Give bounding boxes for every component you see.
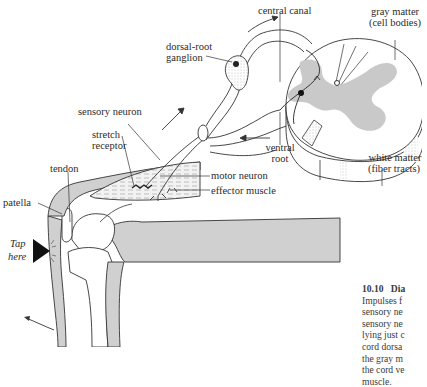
label-tendon: tendon: [50, 163, 79, 175]
tap-arrow-icon: [33, 239, 50, 263]
arrow-up-icon: [162, 110, 182, 130]
label-dorsal-root: dorsal-root: [166, 41, 212, 53]
label-gray-matter-sub: (cell bodies): [362, 17, 427, 29]
caption-line: muscle.: [362, 376, 427, 387]
caption-title: Dia: [391, 283, 405, 294]
label-root: root: [262, 153, 298, 165]
caption-heading: 10.10 Dia: [362, 283, 427, 295]
label-receptor: receptor: [92, 140, 126, 152]
label-effector-muscle: effector muscle: [211, 185, 276, 197]
arrow-top-icon: [248, 18, 276, 32]
label-here: here: [8, 251, 26, 263]
label-motor-neuron: motor neuron: [211, 170, 268, 182]
caption-line: sensory ne: [362, 318, 427, 330]
caption-line: the cord ve: [362, 364, 427, 376]
caption-line: cord dorsa: [362, 341, 427, 353]
label-stretch: stretch: [92, 129, 120, 141]
femur-condyle: [72, 214, 115, 252]
femur: [110, 218, 340, 262]
dorsal-root-ganglion-cell: [233, 61, 239, 67]
caption-line: lying just c: [362, 329, 427, 341]
figure-caption: 10.10 Dia Impulses f sensory ne sensory …: [362, 283, 427, 387]
label-central-canal: central canal: [258, 5, 311, 17]
label-sensory-neuron: sensory neuron: [78, 106, 142, 118]
label-white-matter: white matter: [362, 152, 427, 164]
label-patella: patella: [3, 197, 31, 209]
caption-number: 10.10: [362, 283, 384, 294]
caption-line: Impulses f: [362, 295, 427, 307]
label-ganglion: ganglion: [166, 52, 203, 64]
label-gray-matter: gray matter: [365, 6, 425, 18]
label-ventral: ventral: [262, 142, 298, 154]
label-tap: Tap: [10, 238, 25, 250]
caption-line: sensory ne: [362, 306, 427, 318]
label-white-matter-sub: (fiber tracts): [360, 163, 427, 175]
central-canal: [335, 81, 340, 86]
calf: [106, 262, 124, 347]
swing-arrow-icon: [26, 318, 54, 330]
caption-line: the gray m: [362, 353, 427, 365]
